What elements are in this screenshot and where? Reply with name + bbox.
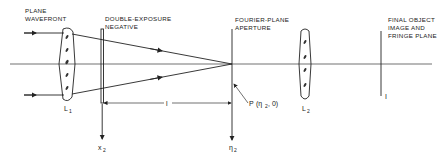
label-plane-wavefront-1: PLANE xyxy=(25,7,47,14)
svg-text:P: P xyxy=(249,100,254,107)
label-final-plane-1: FINAL OBJECT xyxy=(388,16,435,23)
symbol-l2-sub: 2 xyxy=(307,108,310,114)
symbol-l1: L xyxy=(64,105,68,112)
symbol-image-plane: I xyxy=(385,93,387,100)
symbol-x2: x xyxy=(98,144,102,151)
symbol-eta2: η xyxy=(229,144,233,152)
symbol-l1-sub: 1 xyxy=(69,108,72,114)
label-fourier-plane-2: APERTURE xyxy=(235,24,271,31)
label-plane-wavefront-2: WAVEFRONT xyxy=(25,15,67,22)
symbol-eta2-sub: 2 xyxy=(234,147,237,153)
label-fourier-plane-1: FOURIER-PLANE xyxy=(235,16,289,23)
label-final-plane-2: IMAGE AND xyxy=(388,24,425,31)
symbol-x2-sub: 2 xyxy=(103,147,106,153)
point-p-label: P (η 2 , 0) xyxy=(249,100,278,109)
label-double-exposure-1: DOUBLE-EXPOSURE xyxy=(105,15,171,22)
svg-text:, 0): , 0) xyxy=(268,100,278,108)
symbol-l2: L xyxy=(302,105,306,112)
point-p-leader xyxy=(234,84,248,103)
label-final-plane-3: FRINGE PLANE xyxy=(388,32,437,39)
optical-diagram: PLANE WAVEFRONT DOUBLE-EXPOSURE NEGATIVE… xyxy=(0,0,448,160)
symbol-distance-l: l xyxy=(166,100,168,107)
label-double-exposure-2: NEGATIVE xyxy=(105,23,138,30)
svg-text:(η: (η xyxy=(256,100,262,108)
